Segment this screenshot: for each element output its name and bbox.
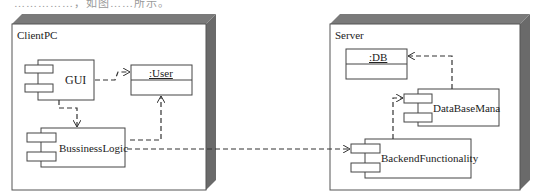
deployment-diagram [0,0,540,196]
component-label-databasemana: DataBaseMana [433,103,500,114]
component-label-backendfunctionality: BackendFunctionality [381,153,478,164]
object-label-db: :DB [369,52,387,63]
object-label-user: :User [149,68,173,79]
node-title-clientpc: ClientPC [17,30,57,41]
node-title-server: Server [335,30,364,41]
component-label-gui: GUI [65,74,86,86]
component-label-bussinesslogic: BussinessLogic [59,143,128,154]
